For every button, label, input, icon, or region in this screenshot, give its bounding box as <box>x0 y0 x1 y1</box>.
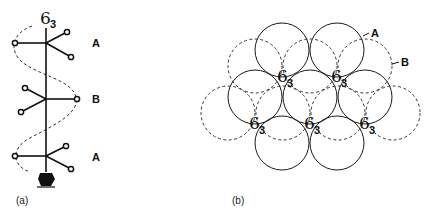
molecule-layer-a-top <box>12 29 73 59</box>
label-b: B <box>401 56 409 68</box>
molecule-layer-b <box>18 85 79 114</box>
caption-a: (a) <box>16 195 28 206</box>
base-anchor-icon <box>38 173 55 186</box>
layer-a-circles <box>228 23 392 170</box>
axis-label-sub: 3 <box>50 18 56 30</box>
svg-text:3: 3 <box>341 77 347 89</box>
layer-label-a-top: A <box>92 37 100 49</box>
svg-text:3: 3 <box>369 124 375 136</box>
screw-axis-labels: 6 3 6 3 6 3 6 3 6 3 <box>249 66 375 136</box>
panel-b: 6 3 6 3 6 3 6 3 6 3 A B (b) <box>201 23 420 206</box>
figure: 6 3 A B A (a) 6 <box>0 0 425 216</box>
svg-text:3: 3 <box>314 124 320 136</box>
svg-text:3: 3 <box>287 77 293 89</box>
panel-a: 6 3 A B A (a) <box>12 8 100 206</box>
layer-label-b: B <box>92 93 100 105</box>
label-a: A <box>371 27 379 39</box>
layer-label-a-bottom: A <box>92 151 100 163</box>
leader-b <box>392 62 399 64</box>
svg-text:3: 3 <box>259 124 265 136</box>
leader-a <box>363 33 369 36</box>
caption-b: (b) <box>232 195 244 206</box>
